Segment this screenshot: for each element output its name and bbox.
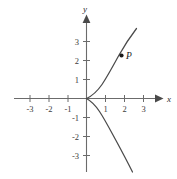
graph-figure: -3 -2 -1 1 2 3 x 3 2 1 -1 -2 -3 <box>0 0 177 179</box>
y-axis-group: 3 2 1 -1 -2 -3 y <box>72 4 90 172</box>
y-tick-label-pos1: 1 <box>75 75 79 85</box>
y-tick-label-neg3: -3 <box>72 151 79 161</box>
y-tick-label-pos3: 3 <box>75 37 79 47</box>
x-tick-label-neg2: -2 <box>45 104 52 114</box>
x-axis-arrow-icon <box>155 95 164 103</box>
point-p-group[interactable]: P <box>119 51 132 61</box>
y-tick-label-neg1: -1 <box>72 113 79 123</box>
point-p-label: P <box>125 51 132 61</box>
x-axis-label: x <box>166 94 171 104</box>
x-tick-label-pos1: 1 <box>103 104 107 114</box>
y-tick-label-neg2: -2 <box>72 132 79 142</box>
x-tick-label-pos2: 2 <box>122 104 126 114</box>
x-tick-label-neg1: -1 <box>64 104 71 114</box>
x-tick-label-pos3: 3 <box>141 104 145 114</box>
x-tick-label-neg3: -3 <box>26 104 33 114</box>
curve-upper-branch <box>87 29 137 99</box>
y-axis-label: y <box>82 4 87 14</box>
y-tick-label-pos2: 2 <box>75 56 79 66</box>
y-axis-arrow-icon <box>83 15 91 24</box>
plot-canvas: -3 -2 -1 1 2 3 x 3 2 1 -1 -2 -3 <box>0 0 177 179</box>
point-p-marker[interactable] <box>119 53 123 57</box>
